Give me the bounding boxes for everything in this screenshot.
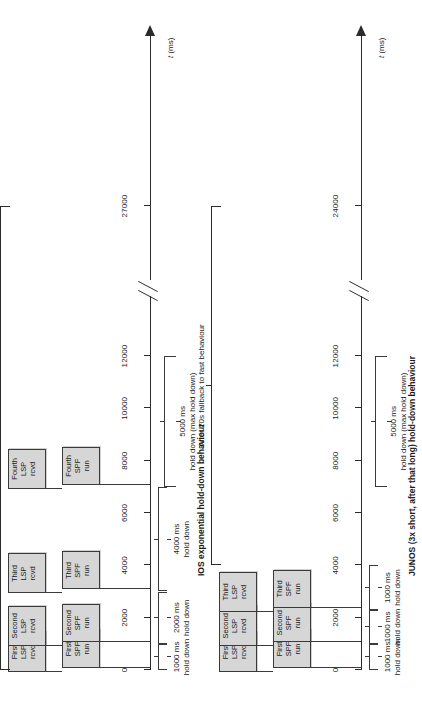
- axis-break-icon: [138, 280, 160, 296]
- fallback-note-label: After 20s fallback to fast behaviour: [197, 324, 206, 447]
- axis-tick: [355, 617, 362, 618]
- lsp-received-box: Fourth LSP rcvd: [8, 449, 46, 489]
- axis-tick-label: 10000: [120, 397, 129, 420]
- spf-run-box: Second SPF run: [62, 604, 100, 642]
- hold-down-brace: [369, 644, 378, 670]
- event-leader-line: [46, 488, 62, 489]
- axis-tick: [144, 205, 151, 206]
- event-leader-line: [311, 667, 361, 668]
- event-leader-line: [46, 593, 62, 594]
- axis-tick: [355, 407, 362, 408]
- axis-tick: [144, 355, 151, 356]
- time-axis-arrowhead: [356, 25, 366, 36]
- hold-down-brace: [164, 356, 176, 487]
- time-axis-line: [361, 36, 362, 670]
- axis-tick-label: 12000: [331, 345, 340, 368]
- junos-timeline-panel: t (ms)02000400060008000100001200024000Fi…: [211, 0, 422, 726]
- axis-tick: [355, 460, 362, 461]
- lsp-received-box: Third LSP rcvd: [8, 554, 46, 594]
- event-leader-line: [100, 667, 150, 668]
- lsp-received-box: Second LSP rcvd: [8, 606, 46, 646]
- event-leader-line: [257, 671, 273, 672]
- axis-tick-label: 10000: [331, 397, 340, 420]
- axis-tick-label: 0: [331, 668, 340, 673]
- axis-tick: [355, 669, 362, 670]
- axis-tick: [144, 617, 151, 618]
- hold-down-brace: [158, 592, 167, 644]
- spf-run-box: Third SPF run: [273, 570, 311, 608]
- hold-down-label: 4000 ms hold down: [172, 479, 191, 599]
- hold-down-brace: [369, 565, 378, 609]
- hold-down-label: 5000 ms hold down (max hold down): [178, 361, 197, 481]
- hold-down-brace: [375, 356, 387, 487]
- event-leader-line: [311, 607, 361, 608]
- axis-tick: [144, 460, 151, 461]
- axis-tick-label: 8000: [331, 452, 340, 470]
- fallback-span-brace: [0, 206, 10, 670]
- time-axis-label: t (ms): [166, 38, 175, 58]
- event-leader-line: [100, 641, 150, 642]
- hold-down-brace: [158, 644, 167, 670]
- axis-tick: [355, 355, 362, 356]
- hold-down-label: 1000 ms hold down: [383, 528, 402, 648]
- axis-tick: [144, 512, 151, 513]
- axis-tick: [144, 407, 151, 408]
- axis-tick-label: 2000: [331, 609, 340, 627]
- time-axis-line: [150, 36, 151, 670]
- event-leader-line: [257, 645, 273, 646]
- lsp-received-box: Third LSP rcvd: [219, 572, 257, 612]
- axis-tick-label: 24000: [331, 195, 340, 218]
- axis-tick-label: 6000: [120, 504, 129, 522]
- axis-label-symbol: t: [377, 56, 386, 58]
- axis-label-unit: (ms): [166, 38, 175, 56]
- axis-tick-label: 27000: [120, 195, 129, 218]
- event-leader-line: [311, 641, 361, 642]
- panel-caption: JUNOS (3x short, after that long) hold-d…: [407, 356, 417, 576]
- axis-tick: [355, 564, 362, 565]
- spf-run-box: Third SPF run: [62, 552, 100, 590]
- lsp-received-box: Second LSP rcvd: [219, 606, 257, 646]
- axis-tick-label: 6000: [331, 504, 340, 522]
- hold-down-brace: [369, 610, 378, 644]
- spf-run-box: Second SPF run: [273, 604, 311, 642]
- axis-label-symbol: t: [166, 56, 175, 58]
- event-leader-line: [257, 611, 273, 612]
- event-leader-line: [100, 484, 150, 485]
- hold-down-brace: [158, 487, 167, 592]
- axis-tick-label: 4000: [120, 556, 129, 574]
- figure-canvas: t (ms)02000400060008000100001200027000Fi…: [0, 0, 422, 726]
- axis-break-icon: [349, 280, 371, 296]
- axis-tick-label: 4000: [331, 556, 340, 574]
- event-leader-line: [100, 589, 150, 590]
- axis-tick: [355, 205, 362, 206]
- axis-tick: [144, 564, 151, 565]
- axis-tick-label: 2000: [120, 609, 129, 627]
- event-leader-line: [46, 671, 62, 672]
- axis-tick-label: 12000: [120, 345, 129, 368]
- hold-down-label: 5000 ms hold down (max hold down): [389, 361, 408, 481]
- spf-run-box: Fourth SPF run: [62, 447, 100, 485]
- fallback-span-brace: [211, 206, 221, 565]
- axis-tick: [355, 512, 362, 513]
- axis-tick-label: 0: [120, 668, 129, 673]
- axis-tick-label: 8000: [120, 452, 129, 470]
- axis-label-unit: (ms): [377, 38, 386, 56]
- axis-tick: [144, 669, 151, 670]
- event-leader-line: [46, 645, 62, 646]
- time-axis-label: t (ms): [377, 38, 386, 58]
- time-axis-arrowhead: [145, 25, 155, 36]
- ios-timeline-panel: t (ms)02000400060008000100001200027000Fi…: [0, 0, 211, 726]
